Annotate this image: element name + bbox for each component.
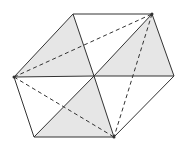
vertex-dot — [113, 136, 116, 139]
solid-edge — [14, 77, 34, 137]
shaded-triangle — [94, 14, 174, 76]
shaded-triangle — [34, 76, 114, 137]
vertex-dot — [13, 76, 16, 79]
hexagon-diagram — [0, 0, 183, 146]
vertex-dot — [151, 13, 154, 16]
solid-edge — [114, 76, 174, 137]
shaded-triangle — [14, 14, 94, 77]
